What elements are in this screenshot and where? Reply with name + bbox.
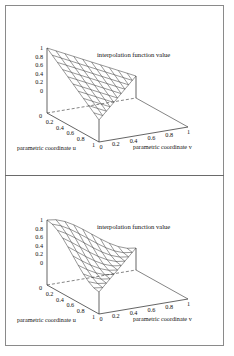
v-axis-label: parametric coordinate v <box>133 143 193 150</box>
floor-right-line <box>136 270 188 299</box>
u-tick-label: 0.4 <box>56 124 64 131</box>
v-tick-label: 0.8 <box>165 131 173 138</box>
u-tick-label: 0 <box>39 284 42 291</box>
v-tick-label: 0.8 <box>165 303 173 310</box>
u-axis <box>47 113 99 142</box>
u-tick-label: 0.6 <box>66 129 74 136</box>
z-tick-label: 1 <box>40 216 43 223</box>
z-tick-label: 0.4 <box>35 242 43 249</box>
surface-mesh <box>47 220 136 292</box>
u-tick-label: 1 <box>92 141 95 148</box>
surface-mesh <box>47 48 136 120</box>
u-tick-label: 0 <box>39 112 42 119</box>
v-tick-label: 0 <box>99 315 102 322</box>
z-tick-label: 0.2 <box>35 78 43 85</box>
z-tick-label: 0.8 <box>35 53 43 60</box>
z-tick-label: 0.8 <box>35 225 43 232</box>
v-axis-label: parametric coordinate v <box>133 315 193 322</box>
z-tick-label: 0.6 <box>35 61 43 68</box>
v-tick-label: 1 <box>187 300 190 307</box>
u-tick-label: 0.2 <box>46 118 54 125</box>
z-tick-label: 0 <box>40 87 43 94</box>
u-tick-label: 0.4 <box>56 296 64 303</box>
v-tick-label: 0.2 <box>112 140 120 147</box>
u-tick-label: 0.6 <box>66 301 74 308</box>
plot-title: interpolation function value <box>97 51 170 58</box>
u-axis-label: parametric coordinate u <box>17 316 76 323</box>
plot-title: interpolation function value <box>97 223 170 230</box>
z-tick-label: 0.2 <box>35 250 43 257</box>
z-tick-label: 0.4 <box>35 70 43 77</box>
u-axis-label: parametric coordinate u <box>17 144 76 151</box>
z-tick-label: 0 <box>40 259 43 266</box>
v-tick-label: 0.6 <box>148 306 156 313</box>
z-tick-label: 0.6 <box>35 233 43 240</box>
floor-right-line <box>136 98 188 127</box>
v-tick-label: 0.6 <box>148 134 156 141</box>
v-tick-label: 1 <box>187 128 190 135</box>
surface-plots: 00.20.40.60.8100.20.40.60.8100.20.40.60.… <box>0 0 234 356</box>
u-tick-label: 0.8 <box>77 135 85 142</box>
u-tick-label: 1 <box>92 313 95 320</box>
floor-back-line <box>47 270 136 285</box>
plot-linear-interpolation: 00.20.40.60.8100.20.40.60.8100.20.40.60.… <box>17 44 193 151</box>
u-axis <box>47 285 99 314</box>
u-tick-label: 0.8 <box>77 307 85 314</box>
plot-smooth-interpolation: 00.20.40.60.8100.20.40.60.8100.20.40.60.… <box>17 216 193 323</box>
v-tick-label: 0.2 <box>112 312 120 319</box>
u-tick-label: 0.2 <box>46 290 54 297</box>
z-tick-label: 1 <box>40 44 43 51</box>
v-tick-label: 0 <box>99 143 102 150</box>
